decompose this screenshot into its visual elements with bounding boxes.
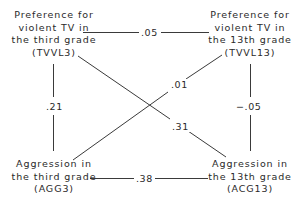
node-tvvl13-line-1: Preference for bbox=[204, 9, 296, 22]
node-tvvl13: Preference for violent TV in the 13th gr… bbox=[204, 9, 296, 59]
edge-tvvl3-agg13-bottom bbox=[188, 131, 226, 157]
node-agg3-line-1: Aggression in bbox=[8, 158, 100, 171]
node-agg13-line-1: Aggression in bbox=[202, 158, 298, 171]
coef-tvvl3-agg13: .31 bbox=[171, 121, 190, 132]
node-tvvl13-line-4: (TVVL13) bbox=[204, 47, 296, 60]
node-agg13-line-3: (ACG13) bbox=[202, 183, 298, 196]
node-tvvl3-line-4: (TVVL3) bbox=[8, 47, 100, 60]
cross-lagged-diagram: Preference for violent TV in the third g… bbox=[0, 0, 301, 208]
edge-tvvl3-agg13-top bbox=[78, 56, 170, 119]
edge-agg3-tvvl13-bottom bbox=[73, 92, 168, 160]
node-agg13-line-2: the 13th grade bbox=[202, 171, 298, 184]
coef-agg3-agg13: .38 bbox=[135, 173, 154, 184]
coef-tvvl3-agg3: .21 bbox=[45, 101, 64, 112]
node-agg3-line-2: the third grade bbox=[8, 171, 100, 184]
node-tvvl3-line-2: violent TV in bbox=[8, 22, 100, 35]
node-tvvl13-line-2: violent TV in bbox=[204, 22, 296, 35]
node-tvvl13-line-3: the 13th grade bbox=[204, 34, 296, 47]
node-tvvl3: Preference for violent TV in the third g… bbox=[8, 9, 100, 59]
node-tvvl3-line-1: Preference for bbox=[8, 9, 100, 22]
node-agg13: Aggression in the 13th grade (ACG13) bbox=[202, 158, 298, 196]
node-tvvl3-line-3: the third grade bbox=[8, 34, 100, 47]
coef-tvvl13-agg13: −.05 bbox=[235, 101, 262, 112]
coef-agg3-tvvl13: .01 bbox=[170, 79, 189, 90]
node-agg3: Aggression in the third grade (AGG3) bbox=[8, 158, 100, 196]
node-agg3-line-3: (AGG3) bbox=[8, 183, 100, 196]
coef-tvvl3-tvvl13: .05 bbox=[140, 27, 159, 38]
